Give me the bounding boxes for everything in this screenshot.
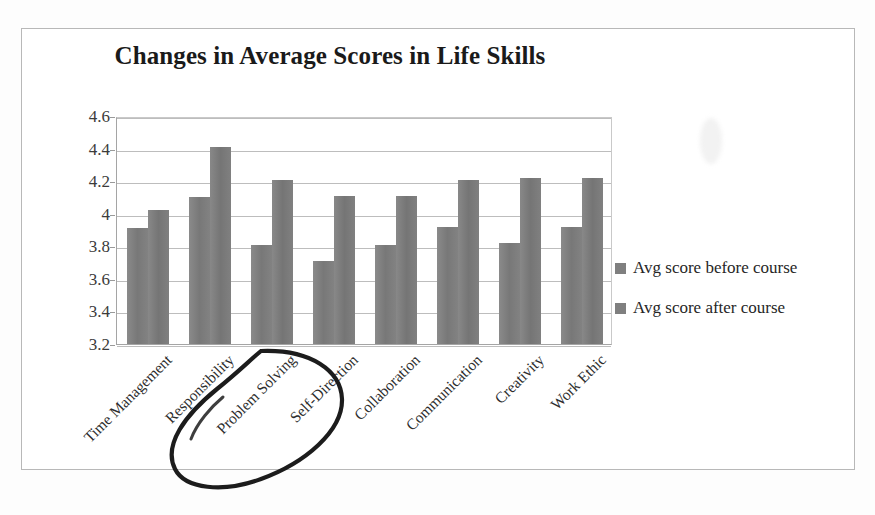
legend-item: Avg score before course xyxy=(615,258,865,278)
legend-item-label: Avg score after course xyxy=(633,298,785,318)
legend: Avg score before course Avg score after … xyxy=(615,258,865,338)
scanned-page: Changes in Average Scores in Life Skills… xyxy=(0,0,875,515)
scan-smudge xyxy=(700,118,722,164)
page-bottom-ghost-text xyxy=(255,487,855,509)
legend-item-label: Avg score before course xyxy=(633,258,797,278)
legend-item: Avg score after course xyxy=(615,298,865,318)
legend-swatch-icon xyxy=(615,263,626,274)
legend-swatch-icon xyxy=(615,303,626,314)
